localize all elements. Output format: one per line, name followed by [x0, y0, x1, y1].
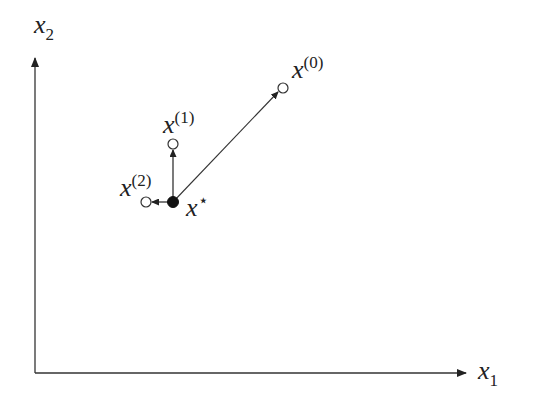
x-axis-label: x1 [477, 356, 498, 390]
axes [35, 58, 466, 373]
point-x2 [141, 197, 151, 207]
label-x1: x(1) [162, 108, 194, 139]
label-x0: x(0) [291, 53, 323, 84]
y-axis-label: x2 [33, 10, 54, 44]
point-x1 [168, 139, 178, 149]
diagram-canvas: x2 x1 x(0) x(1) x(2) x⋆ [0, 0, 533, 407]
point-xstar [168, 197, 179, 208]
point-x0 [278, 83, 288, 93]
label-xstar: x⋆ [185, 191, 209, 222]
